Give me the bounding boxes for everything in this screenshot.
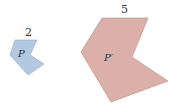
polygon-label-p: P [17,48,25,59]
polygon-p-prime [81,18,168,102]
polygon-p [10,40,44,75]
figure-canvas: 2 P 5 P′ [0,0,180,108]
side-length-label-p: 2 [25,26,32,39]
polygon-label-p-prime: P′ [103,52,114,63]
side-length-label-p-prime: 5 [121,3,128,16]
similar-polygons-figure: 2 P 5 P′ [0,0,180,108]
